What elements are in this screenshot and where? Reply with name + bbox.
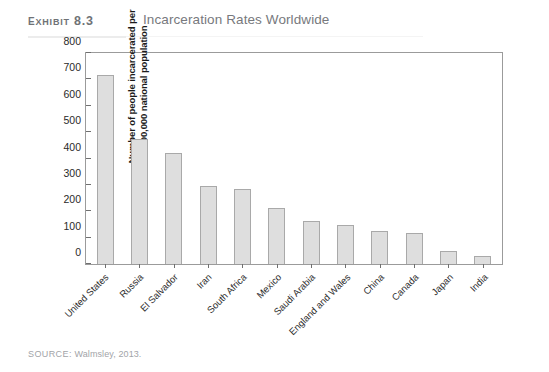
x-label-slot: Canada — [398, 267, 433, 337]
x-axis-category-label: Iran — [195, 271, 214, 290]
bar[interactable] — [406, 233, 423, 264]
y-tick-label: 300 — [63, 167, 81, 179]
x-label-slot: India — [467, 267, 502, 337]
source-note: SOURCE: Walmsley, 2013. — [28, 349, 141, 359]
exhibit-number-label: Exhibit 8.3 — [28, 12, 94, 28]
y-tick-label: 500 — [63, 114, 81, 126]
bar-slot — [397, 53, 431, 264]
bar[interactable] — [97, 75, 114, 264]
x-label-slot: Japan — [432, 267, 467, 337]
bar-slot — [328, 53, 362, 264]
x-label-slot: South Africa — [225, 267, 260, 337]
y-tick-label: 700 — [63, 61, 81, 73]
bar-slot — [363, 53, 397, 264]
x-label-slot: United States — [87, 267, 122, 337]
bar[interactable] — [268, 208, 285, 264]
bar-slot — [88, 53, 122, 264]
bar-chart-plot-area: Number of people incarcerated per 100,00… — [85, 52, 503, 265]
bar[interactable] — [337, 225, 354, 264]
bar[interactable] — [474, 256, 491, 264]
bar[interactable] — [165, 153, 182, 264]
x-axis-category-label: United States — [62, 271, 110, 319]
bar-slot — [294, 53, 328, 264]
bar[interactable] — [131, 139, 148, 264]
y-tick-label: 800 — [63, 35, 81, 47]
bar[interactable] — [234, 189, 251, 264]
x-label-slot: China — [363, 267, 398, 337]
bar-slot — [157, 53, 191, 264]
y-tick-label: 600 — [63, 88, 81, 100]
source-keyword: SOURCE: — [28, 349, 72, 359]
source-text: Walmsley, 2013. — [74, 349, 141, 359]
x-axis-category-label: China — [361, 271, 386, 296]
bar-slot — [191, 53, 225, 264]
header-divider-secondary — [126, 36, 423, 37]
page-title: Incarceration Rates Worldwide — [143, 12, 329, 27]
bar[interactable] — [200, 186, 217, 264]
bar-slot — [260, 53, 294, 264]
x-axis-category-label: India — [468, 271, 490, 293]
y-tick-label: 400 — [63, 141, 81, 153]
x-label-slot: El Salvador — [156, 267, 191, 337]
exhibit-header: Exhibit 8.3 Incarceration Rates Worldwid… — [0, 12, 549, 42]
y-tick-label: 0 — [75, 246, 81, 258]
y-tick-label: 100 — [63, 220, 81, 232]
x-axis-category-label: Russia — [117, 271, 145, 299]
x-label-slot: England and Wales — [329, 267, 364, 337]
bar[interactable] — [371, 231, 388, 264]
bar-slot — [466, 53, 500, 264]
bar-slot — [225, 53, 259, 264]
bar[interactable] — [440, 251, 457, 264]
exhibit-page: Exhibit 8.3 Incarceration Rates Worldwid… — [0, 0, 549, 372]
x-axis-category-label: Japan — [430, 271, 456, 297]
bar[interactable] — [303, 221, 320, 264]
x-axis-labels: United StatesRussiaEl SalvadorIranSouth … — [85, 267, 503, 337]
y-tick-label: 200 — [63, 193, 81, 205]
bar-slot — [431, 53, 465, 264]
bar-slot — [122, 53, 156, 264]
bar-series — [86, 53, 502, 264]
